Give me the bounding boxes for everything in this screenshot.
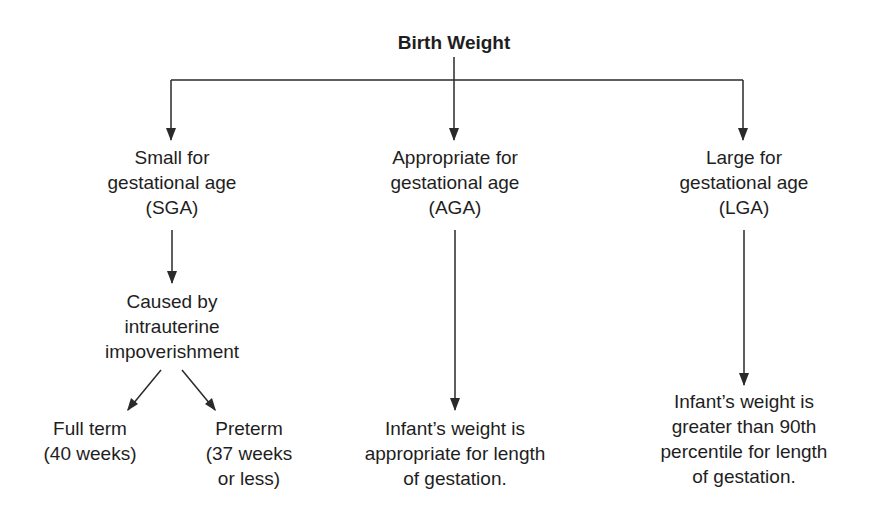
node-text: (37 weeks <box>184 441 314 466</box>
node-text: Infant’s weight is <box>345 416 565 441</box>
node-text: (AGA) <box>355 195 555 220</box>
node-text: of gestation. <box>345 466 565 491</box>
node-text: of gestation. <box>634 464 854 489</box>
node-text: Caused by <box>72 289 272 314</box>
birth-weight-diagram: Birth Weight Small for gestational age (… <box>0 0 875 522</box>
node-lga: Large for gestational age (LGA) <box>644 145 844 220</box>
node-text: Appropriate for <box>355 145 555 170</box>
node-text: greater than 90th <box>634 414 854 439</box>
node-text: Small for <box>72 145 272 170</box>
node-text: intrauterine <box>72 314 272 339</box>
node-text: or less) <box>184 466 314 491</box>
node-text: Preterm <box>184 416 314 441</box>
node-text: Infant’s weight is <box>634 389 854 414</box>
node-text: appropriate for length <box>345 441 565 466</box>
node-full-term: Full term (40 weeks) <box>20 416 160 466</box>
node-text: (40 weeks) <box>20 441 160 466</box>
node-aga-result: Infant’s weight is appropriate for lengt… <box>345 416 565 491</box>
node-text: (SGA) <box>72 195 272 220</box>
node-text: Birth Weight <box>354 30 554 55</box>
node-text: gestational age <box>644 170 844 195</box>
node-text: gestational age <box>72 170 272 195</box>
node-text: impoverishment <box>72 339 272 364</box>
node-text: Full term <box>20 416 160 441</box>
node-lga-result: Infant’s weight is greater than 90th per… <box>634 389 854 489</box>
node-preterm: Preterm (37 weeks or less) <box>184 416 314 491</box>
node-text: Large for <box>644 145 844 170</box>
node-text: percentile for length <box>634 439 854 464</box>
node-text: gestational age <box>355 170 555 195</box>
node-sga: Small for gestational age (SGA) <box>72 145 272 220</box>
root-node-birth-weight: Birth Weight <box>354 30 554 55</box>
node-text: (LGA) <box>644 195 844 220</box>
node-aga: Appropriate for gestational age (AGA) <box>355 145 555 220</box>
node-sga-cause: Caused by intrauterine impoverishment <box>72 289 272 364</box>
